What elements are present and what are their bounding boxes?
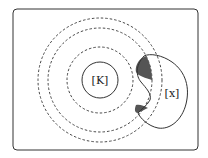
blob-label: [x] xyxy=(165,87,180,100)
center-label: [K] xyxy=(92,74,109,87)
diagram-canvas: [K] [x] xyxy=(0,0,208,158)
